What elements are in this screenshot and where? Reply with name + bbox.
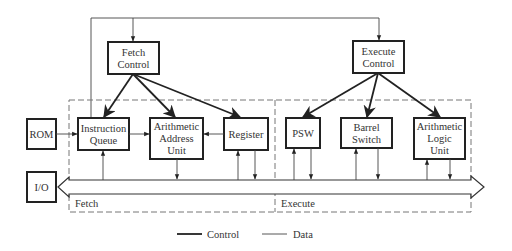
barrel-switch-label-1: Barrel xyxy=(353,122,379,133)
fetch-control-label-2: Control xyxy=(117,59,149,70)
alu-label-1: Arithmetic xyxy=(417,121,463,132)
instruction-queue-label-2: Queue xyxy=(90,135,118,146)
instruction-queue-box: Instruction Queue xyxy=(78,118,129,150)
aau-label-1: Arithmetic xyxy=(154,121,200,132)
internal-bus xyxy=(58,176,484,198)
register-box: Register xyxy=(224,118,268,150)
io-box: I/O xyxy=(27,172,56,202)
alu-label-3: Unit xyxy=(430,145,449,156)
execute-section-label: Execute xyxy=(281,198,315,209)
legend-control-label: Control xyxy=(207,229,239,240)
barrel-switch-label-2: Switch xyxy=(352,134,382,145)
io-label: I/O xyxy=(35,182,49,193)
execute-control-box: Execute Control xyxy=(353,41,404,73)
legend: Control Data xyxy=(177,229,313,240)
legend-data-label: Data xyxy=(293,229,313,240)
fetch-control-label-1: Fetch xyxy=(122,47,146,58)
alu-label-2: Logic xyxy=(427,133,452,144)
arithmetic-address-unit-box: Arithmetic Address Unit xyxy=(150,118,203,159)
fetch-section-label: Fetch xyxy=(75,198,99,209)
rom-box: ROM xyxy=(27,119,56,149)
register-label: Register xyxy=(229,129,264,140)
instruction-queue-label-1: Instruction xyxy=(81,123,127,134)
aau-label-3: Unit xyxy=(167,145,186,156)
aau-label-2: Address xyxy=(159,133,193,144)
psw-label: PSW xyxy=(292,128,314,139)
execute-control-label-2: Control xyxy=(362,58,394,69)
pipeline-region xyxy=(69,100,471,212)
pipeline-block-diagram: Fetch Control Execute Control ROM Instru… xyxy=(0,0,512,251)
barrel-switch-box: Barrel Switch xyxy=(341,118,392,148)
fetch-control-arrows xyxy=(104,74,240,117)
rom-label: ROM xyxy=(30,129,55,140)
execute-control-label-1: Execute xyxy=(362,46,396,57)
execute-control-arrows xyxy=(303,73,440,117)
alu-box: Arithmetic Logic Unit xyxy=(414,118,465,159)
psw-box: PSW xyxy=(286,118,320,148)
fetch-control-box: Fetch Control xyxy=(108,42,159,74)
